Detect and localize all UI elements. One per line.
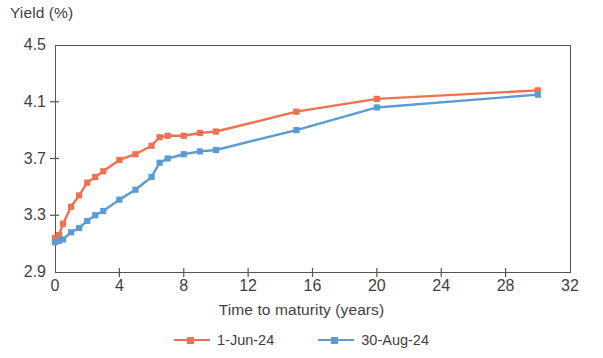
data-point-marker bbox=[92, 174, 98, 180]
data-point-marker bbox=[68, 229, 74, 235]
data-point-marker bbox=[92, 212, 98, 218]
data-point-marker bbox=[197, 130, 203, 136]
data-point-marker bbox=[213, 128, 219, 134]
data-point-marker bbox=[76, 225, 82, 231]
data-point-marker bbox=[165, 133, 171, 139]
x-axis-title: Time to maturity (years) bbox=[0, 301, 603, 319]
x-tick-label: 4 bbox=[99, 277, 139, 295]
data-point-marker bbox=[60, 236, 66, 242]
legend-swatch-icon bbox=[174, 334, 210, 346]
x-tick-label: 20 bbox=[357, 277, 397, 295]
data-point-marker bbox=[76, 192, 82, 198]
data-point-marker bbox=[374, 96, 380, 102]
x-tick-label: 28 bbox=[486, 277, 526, 295]
legend-item[interactable]: 30-Aug-24 bbox=[318, 332, 429, 348]
data-point-marker bbox=[157, 160, 163, 166]
x-tick-label: 0 bbox=[35, 277, 75, 295]
data-point-marker bbox=[148, 174, 154, 180]
data-point-marker bbox=[116, 157, 122, 163]
series-1 bbox=[52, 87, 541, 241]
x-tick-label: 24 bbox=[421, 277, 461, 295]
data-point-marker bbox=[181, 151, 187, 157]
legend-swatch-icon bbox=[318, 334, 354, 346]
y-axis-title: Yield (%) bbox=[10, 4, 73, 22]
legend-marker bbox=[331, 337, 338, 344]
legend-label: 30-Aug-24 bbox=[361, 332, 429, 348]
series-line bbox=[55, 95, 538, 243]
data-point-marker bbox=[132, 187, 138, 193]
x-tick-label: 12 bbox=[228, 277, 268, 295]
data-point-marker bbox=[100, 208, 106, 214]
y-tick-label: 4.5 bbox=[2, 36, 46, 54]
data-point-marker bbox=[293, 109, 299, 115]
x-tick-label: 16 bbox=[293, 277, 333, 295]
data-point-marker bbox=[68, 204, 74, 210]
data-point-marker bbox=[116, 197, 122, 203]
data-point-marker bbox=[213, 147, 219, 153]
x-tick-label: 32 bbox=[550, 277, 590, 295]
data-point-marker bbox=[60, 221, 66, 227]
data-point-marker bbox=[165, 155, 171, 161]
data-point-marker bbox=[132, 151, 138, 157]
chart-legend: 1-Jun-2430-Aug-24 bbox=[0, 332, 603, 348]
y-tick-label: 3.3 bbox=[2, 206, 46, 224]
legend-marker bbox=[187, 337, 194, 344]
x-tick-label: 8 bbox=[164, 277, 204, 295]
legend-item[interactable]: 1-Jun-24 bbox=[174, 332, 274, 348]
data-point-marker bbox=[293, 127, 299, 133]
data-point-marker bbox=[197, 148, 203, 154]
data-point-marker bbox=[181, 133, 187, 139]
y-tick-label: 3.7 bbox=[2, 150, 46, 168]
yield-curve-chart: Yield (%) 2.93.33.74.14.5 04812162024283… bbox=[0, 0, 603, 358]
data-point-marker bbox=[84, 180, 90, 186]
plot-frame bbox=[56, 46, 571, 273]
data-point-marker bbox=[84, 218, 90, 224]
y-tick-label: 4.1 bbox=[2, 93, 46, 111]
legend-label: 1-Jun-24 bbox=[217, 332, 274, 348]
data-point-marker bbox=[535, 92, 541, 98]
data-point-marker bbox=[374, 104, 380, 110]
data-point-marker bbox=[100, 168, 106, 174]
data-point-marker bbox=[148, 143, 154, 149]
data-point-marker bbox=[157, 134, 163, 140]
